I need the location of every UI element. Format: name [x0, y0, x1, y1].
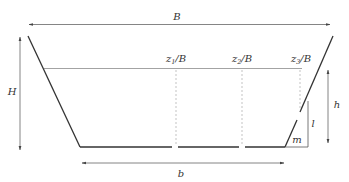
position-label-2: z2/B [231, 53, 252, 66]
position-label-1: z1/B [165, 53, 186, 66]
position-label-3: z3/B [290, 53, 311, 66]
channel-diagram: B H z1/B z2/B z3/B h l m b [0, 0, 349, 182]
slope-horizontal-label: m [292, 134, 301, 145]
bottom-width-label: b [178, 168, 184, 179]
water-depth-label: h [334, 99, 340, 110]
top-width-label: B [172, 11, 180, 22]
total-height-label: H [7, 86, 17, 97]
left-wall [28, 36, 80, 147]
slope-vertical-label: l [311, 118, 314, 129]
